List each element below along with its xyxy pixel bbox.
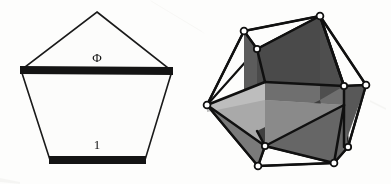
geometry-figure: Φ 1 bbox=[0, 0, 391, 184]
vertex-lower-right bbox=[345, 144, 351, 150]
phi-label: Φ bbox=[92, 50, 102, 65]
vertex-right-inner bbox=[341, 83, 347, 89]
vertex-bottom-right bbox=[331, 160, 338, 167]
vertex-top-right bbox=[317, 13, 324, 20]
vertex-bottom-left bbox=[255, 163, 262, 170]
vertex-upper-inner bbox=[254, 46, 260, 52]
vertex-mid-left bbox=[262, 143, 268, 149]
vertex-left-outer bbox=[204, 102, 211, 109]
figure-canvas: Φ 1 bbox=[0, 0, 391, 184]
pentagon-base-bar bbox=[49, 156, 146, 164]
one-label: 1 bbox=[94, 137, 101, 152]
pentagon-diagonal-bar bbox=[20, 66, 173, 75]
vertex-right-outer bbox=[363, 82, 370, 89]
vertex-top-left bbox=[241, 28, 248, 35]
